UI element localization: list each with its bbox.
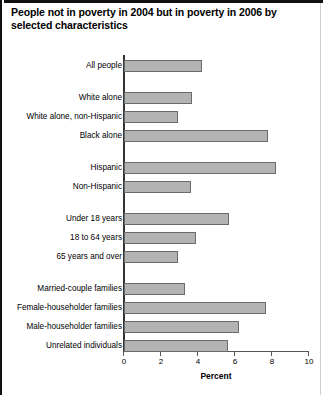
bar: [124, 283, 185, 295]
category-label: Female-householder families: [0, 303, 122, 313]
bar: [124, 92, 192, 104]
category-label: Hispanic: [0, 163, 122, 173]
bar: [124, 321, 239, 333]
category-label: 18 to 64 years: [0, 233, 122, 243]
bar-row: Under 18 years: [2, 213, 323, 225]
bar-row: Male-householder families: [2, 321, 323, 333]
bar-row: 18 to 64 years: [2, 232, 323, 244]
category-label: Non-Hispanic: [0, 182, 122, 192]
bar: [124, 60, 202, 72]
bar-row: White alone, non-Hispanic: [2, 111, 323, 123]
bar: [124, 162, 276, 174]
bar-row: All people: [2, 60, 323, 72]
category-label: 65 years and over: [0, 252, 122, 262]
x-tick: [234, 352, 235, 356]
category-label: Under 18 years: [0, 214, 122, 224]
x-tick-label: 8: [262, 357, 282, 366]
bar: [124, 213, 229, 225]
x-tick: [271, 352, 272, 356]
bar: [124, 130, 268, 142]
bar-row: Female-householder families: [2, 302, 323, 314]
bar-row: Non-Hispanic: [2, 181, 323, 193]
bar: [124, 232, 196, 244]
category-label: All people: [0, 61, 122, 71]
bar: [124, 340, 228, 352]
bar: [124, 251, 178, 263]
bar-row: Hispanic: [2, 162, 323, 174]
header-rule: [4, 0, 323, 3]
x-tick-label: 10: [299, 357, 319, 366]
x-tick: [308, 352, 309, 356]
category-label: Unrelated individuals: [0, 341, 122, 351]
x-tick: [197, 352, 198, 356]
category-label: White alone: [0, 93, 122, 103]
x-tick: [160, 352, 161, 356]
bar-row: 65 years and over: [2, 251, 323, 263]
x-axis-label: Percent: [123, 371, 309, 381]
category-label: Male-householder families: [0, 322, 122, 332]
x-tick-label: 4: [188, 357, 208, 366]
x-tick-label: 6: [225, 357, 245, 366]
bar-row: White alone: [2, 92, 323, 104]
bar: [124, 302, 266, 314]
x-tick-label: 0: [114, 357, 134, 366]
x-tick: [123, 352, 124, 356]
bar-row: Unrelated individuals: [2, 340, 323, 352]
chart-title: People not in poverty in 2004 but in pov…: [11, 6, 311, 32]
bar: [124, 111, 178, 123]
category-label: Married-couple families: [0, 284, 122, 294]
x-tick-label: 2: [151, 357, 171, 366]
bar-row: Married-couple families: [2, 283, 323, 295]
bar-row: Black alone: [2, 130, 323, 142]
plot-area: 0246810 All peopleWhite aloneWhite alone…: [2, 55, 323, 355]
bar: [124, 181, 191, 193]
category-label: White alone, non-Hispanic: [0, 112, 122, 122]
category-label: Black alone: [0, 131, 122, 141]
